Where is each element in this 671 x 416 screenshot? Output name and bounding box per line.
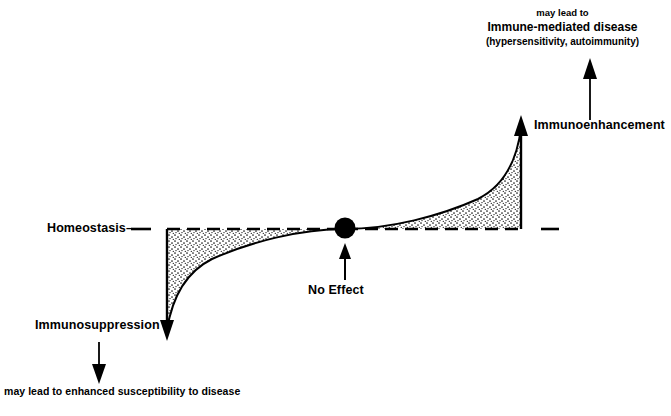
immunosuppression-region <box>167 229 345 330</box>
enhancement-consequence-line-2: Immune-mediated disease <box>460 21 665 35</box>
immunosuppression-arrowhead-icon <box>160 320 174 341</box>
suppression-consequence-arrowhead-icon <box>92 364 106 384</box>
immunosuppression-label: Immunosuppression <box>35 318 160 332</box>
homeostasis-label: Homeostasis– <box>47 221 133 235</box>
immunotoxicity-continuum-figure: Homeostasis– Immunosuppression Immunoenh… <box>0 0 671 416</box>
suppression-consequence-note: may lead to enhanced susceptibility to d… <box>4 385 240 397</box>
enhancement-consequence-note: may lead to Immune-mediated disease (hyp… <box>460 8 665 47</box>
diagram-canvas <box>0 0 671 416</box>
no-effect-point-marker <box>335 218 356 239</box>
enhancement-consequence-line-3: (hypersensitivity, autoimmunity) <box>460 36 665 48</box>
immunoenhancement-arrowhead-icon <box>514 115 528 136</box>
enhancement-consequence-line-1: may lead to <box>460 8 665 19</box>
no-effect-arrowhead-icon <box>339 243 351 259</box>
enhancement-consequence-arrowhead-icon <box>583 58 597 79</box>
immunoenhancement-label: Immunoenhancement <box>534 118 665 132</box>
immunoenhancement-region <box>345 128 521 229</box>
no-effect-label: No Effect <box>308 283 364 297</box>
